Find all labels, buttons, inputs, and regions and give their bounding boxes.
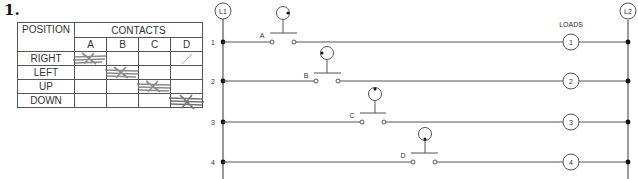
rung-number: 4 [211, 159, 215, 166]
rung-1: 1 A 1 [211, 7, 630, 51]
contact-terminal [411, 160, 415, 164]
rung-number: 1 [211, 39, 215, 46]
rung-number: 2 [211, 78, 215, 85]
rung-3: 3 C 3 [211, 88, 630, 131]
rung-number: 3 [211, 119, 215, 126]
load-label: 3 [569, 119, 573, 126]
l1-label: L1 [219, 8, 227, 15]
l2-label: L2 [624, 8, 632, 15]
l2-terminal: L2 [620, 3, 636, 19]
joystick-contact-icon [360, 88, 386, 114]
load-label: 4 [569, 159, 573, 166]
contact-terminal [270, 40, 274, 44]
junction-dot [626, 160, 631, 165]
contact-label: D [400, 152, 405, 159]
junction-dot [626, 40, 631, 45]
loads-label: LOADS [559, 21, 583, 28]
l1-terminal: L1 [215, 3, 231, 19]
ladder-diagram: L1 L2 LOADS 1 A 1 2 B [0, 0, 638, 179]
rung-2: 2 B 2 [211, 47, 630, 90]
contact-terminal [360, 120, 364, 124]
contact-terminal [314, 79, 318, 83]
load-label: 2 [569, 78, 573, 85]
joystick-contact-icon [411, 128, 438, 154]
joystick-contact-icon [270, 7, 297, 34]
contact-terminal [382, 120, 386, 124]
contact-label: A [260, 32, 265, 39]
contact-label: B [304, 72, 309, 79]
contact-terminal [433, 160, 437, 164]
joystick-contact-icon [314, 47, 341, 74]
junction-dot [626, 79, 631, 84]
junction-dot [626, 120, 631, 125]
rung-4: 4 D 4 [211, 128, 630, 171]
contact-label: C [349, 112, 354, 119]
contact-terminal [336, 79, 340, 83]
load-label: 1 [569, 39, 573, 46]
contact-terminal [292, 40, 296, 44]
